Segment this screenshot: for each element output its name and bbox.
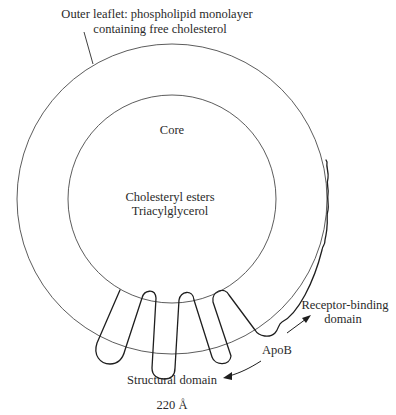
diagram-canvas: Outer leaflet: phospholipid monolayer co… xyxy=(0,0,396,415)
structural-domain-arrowhead xyxy=(223,372,232,380)
apob-label: ApoB xyxy=(262,343,292,357)
outer-leaflet-leader-line xyxy=(84,32,93,64)
receptor-binding-arrow xyxy=(287,319,306,333)
core-contents-label-line2: Triacylglycerol xyxy=(132,204,209,218)
structural-domain-label: Structural domain xyxy=(127,373,218,387)
outer-leaflet-label-line2: containing free cholesterol xyxy=(93,22,227,36)
diameter-label: 220 Å xyxy=(157,398,188,412)
receptor-binding-label-line2: domain xyxy=(324,312,362,326)
outer-leaflet-label-line1: Outer leaflet: phospholipid monolayer xyxy=(61,7,253,21)
ldl-diagram: Outer leaflet: phospholipid monolayer co… xyxy=(0,0,396,415)
receptor-binding-arrowhead xyxy=(302,315,311,323)
core-contents-label-line1: Cholesteryl esters xyxy=(125,190,214,204)
core-label: Core xyxy=(160,123,185,137)
receptor-binding-label-line1: Receptor-binding xyxy=(301,298,389,312)
structural-domain-arrow xyxy=(229,361,261,376)
